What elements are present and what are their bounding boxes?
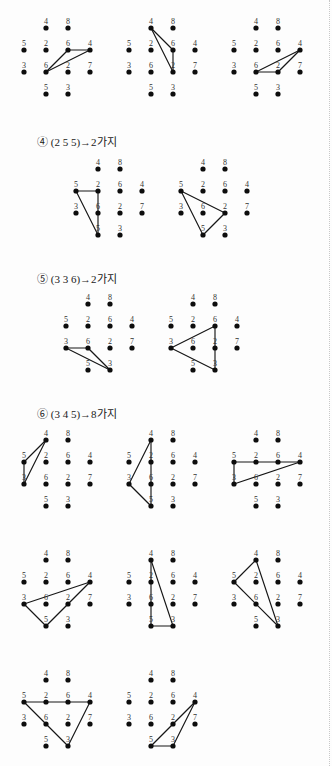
section-heading-section-6: ⑥ (3 4 5)→8가지 xyxy=(37,405,117,421)
node-dot xyxy=(200,188,205,193)
node-label: 3 xyxy=(118,224,122,233)
node-dot xyxy=(148,557,153,562)
node-dot xyxy=(253,91,258,96)
node-label: 4 xyxy=(193,571,197,580)
node-dot xyxy=(170,69,175,74)
node-label: 6 xyxy=(118,180,122,189)
node-label: 2 xyxy=(254,571,258,580)
edge-segment xyxy=(88,348,110,370)
node-label: 3 xyxy=(276,615,280,624)
figure-s4-1: 485264362753 xyxy=(66,157,152,247)
node-label: 4 xyxy=(88,691,92,700)
node-dot xyxy=(107,323,112,328)
node-label: 6 xyxy=(191,337,195,346)
node-label: 6 xyxy=(66,451,70,460)
node-label: 8 xyxy=(223,158,227,167)
node-dot xyxy=(43,437,48,442)
edge-segment xyxy=(278,50,300,72)
node-dot xyxy=(170,601,175,606)
node-label: 5 xyxy=(149,615,153,624)
node-label: 3 xyxy=(74,202,78,211)
node-label: 8 xyxy=(66,429,70,438)
node-label: 7 xyxy=(88,713,92,722)
node-label: 7 xyxy=(140,202,144,211)
page-right-rule xyxy=(329,0,330,766)
figure-s6-4: 485264362753 xyxy=(14,548,100,638)
node-dot xyxy=(275,459,280,464)
node-label: 4 xyxy=(298,39,302,48)
node-dot xyxy=(43,557,48,562)
node-dot xyxy=(170,721,175,726)
figure-s5-2-canvas: 485264362753 xyxy=(161,292,247,382)
node-label: 3 xyxy=(179,202,183,211)
node-dot xyxy=(168,345,173,350)
node-dot xyxy=(253,503,258,508)
node-dot xyxy=(65,503,70,508)
node-dot xyxy=(170,579,175,584)
node-label: 6 xyxy=(66,691,70,700)
node-dot xyxy=(148,579,153,584)
node-dot xyxy=(244,210,249,215)
node-dot xyxy=(212,301,217,306)
node-label: 3 xyxy=(276,83,280,92)
node-label: 8 xyxy=(171,669,175,678)
node-dot xyxy=(65,623,70,628)
node-label: 6 xyxy=(44,61,48,70)
node-dot xyxy=(275,481,280,486)
node-label: 4 xyxy=(298,571,302,580)
node-dot xyxy=(85,323,90,328)
node-label: 7 xyxy=(193,61,197,70)
node-label: 4 xyxy=(44,429,48,438)
node-dot xyxy=(192,601,197,606)
node-label: 6 xyxy=(171,691,175,700)
node-label: 2 xyxy=(254,451,258,460)
node-dot xyxy=(43,91,48,96)
node-label: 5 xyxy=(44,615,48,624)
node-dot xyxy=(126,481,131,486)
node-label: 2 xyxy=(66,61,70,70)
node-label: 5 xyxy=(232,451,236,460)
node-dot xyxy=(107,345,112,350)
node-label: 5 xyxy=(74,180,78,189)
node-label: 3 xyxy=(66,615,70,624)
node-dot xyxy=(148,47,153,52)
node-label: 2 xyxy=(254,39,258,48)
node-label: 6 xyxy=(223,180,227,189)
node-dot xyxy=(65,25,70,30)
node-dot xyxy=(95,210,100,215)
node-dot xyxy=(43,25,48,30)
figure-s6-5: 485264362753 xyxy=(119,548,205,638)
node-dot xyxy=(21,481,26,486)
edge-segment xyxy=(234,560,256,582)
node-label: 4 xyxy=(149,549,153,558)
node-dot xyxy=(275,503,280,508)
node-dot xyxy=(253,623,258,628)
node-dot xyxy=(192,699,197,704)
node-dot xyxy=(297,579,302,584)
node-label: 2 xyxy=(108,337,112,346)
node-label: 5 xyxy=(44,83,48,92)
node-label: 2 xyxy=(171,713,175,722)
figure-s6-7: 485264362753 xyxy=(14,668,100,758)
node-label: 8 xyxy=(66,17,70,26)
node-label: 8 xyxy=(276,429,280,438)
node-label: 4 xyxy=(88,451,92,460)
node-dot xyxy=(139,210,144,215)
figure-s6-8: 485264362753 xyxy=(119,668,205,758)
node-label: 3 xyxy=(171,615,175,624)
node-dot xyxy=(222,188,227,193)
node-label: 7 xyxy=(88,593,92,602)
node-label: 6 xyxy=(276,571,280,580)
node-label: 8 xyxy=(118,158,122,167)
node-label: 3 xyxy=(66,495,70,504)
node-label: 5 xyxy=(169,315,173,324)
node-label: 3 xyxy=(232,473,236,482)
node-dot xyxy=(148,481,153,486)
figure-s5-1-canvas: 485264362753 xyxy=(56,292,142,382)
node-dot xyxy=(126,699,131,704)
node-dot xyxy=(275,91,280,96)
node-label: 4 xyxy=(235,315,239,324)
node-label: 2 xyxy=(149,691,153,700)
node-label: 3 xyxy=(22,61,26,70)
node-dot xyxy=(170,459,175,464)
